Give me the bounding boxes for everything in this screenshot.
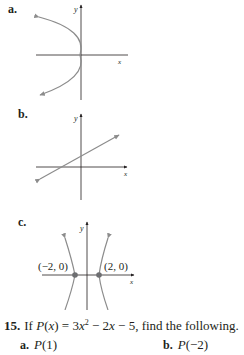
point-neg2-0 bbox=[72, 272, 78, 278]
svg-text:(2, 0): (2, 0) bbox=[104, 260, 128, 273]
graph-c: y x (−2, 0) (2, 0) bbox=[0, 200, 244, 310]
problem-15: 15.If P(x) = 3x2 − 2x − 5, find the foll… bbox=[4, 318, 239, 334]
parabola-curve bbox=[39, 17, 81, 95]
svg-text:y: y bbox=[73, 114, 78, 123]
svg-text:x: x bbox=[117, 58, 122, 66]
svg-text:x: x bbox=[129, 278, 134, 286]
point-2-0 bbox=[96, 272, 102, 278]
svg-text:(−2, 0): (−2, 0) bbox=[38, 260, 68, 273]
svg-text:y: y bbox=[73, 5, 78, 14]
part-a: a.P(1) bbox=[20, 337, 57, 353]
graph-b: y x bbox=[0, 100, 244, 200]
svg-text:x: x bbox=[123, 170, 128, 178]
problem-number: 15. bbox=[4, 318, 20, 333]
svg-text:y: y bbox=[79, 224, 84, 233]
line-graph bbox=[40, 135, 119, 179]
part-b: b.P(−2) bbox=[163, 337, 208, 353]
graph-a: y x bbox=[0, 0, 244, 100]
